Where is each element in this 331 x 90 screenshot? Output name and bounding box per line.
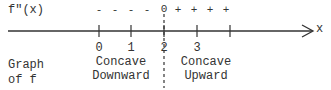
sign-zero: 0: [161, 3, 168, 15]
sign-positive: +: [175, 4, 182, 16]
concave-up-line2: Upward: [184, 69, 227, 83]
tick-label-2: 2: [160, 41, 167, 55]
sign-positive: +: [207, 4, 214, 16]
concave-down-line1: Concave: [96, 55, 146, 69]
function-label: f"(x): [8, 3, 44, 17]
graph-label-line2: of f: [8, 73, 37, 87]
x-axis-label: x: [316, 22, 323, 36]
concave-up-line1: Concave: [181, 55, 231, 69]
sign-negative: -: [144, 4, 151, 16]
tick-label-3: 3: [193, 41, 200, 55]
sign-positive: +: [223, 4, 230, 16]
graph-label-line1: Graph: [8, 58, 44, 72]
sign-positive: +: [191, 4, 198, 16]
sign-negative: -: [128, 4, 135, 16]
concave-down-line2: Downward: [92, 69, 150, 83]
tick-label-0: 0: [95, 41, 102, 55]
tick-label-1: 1: [127, 41, 134, 55]
sign-negative: -: [96, 4, 103, 16]
sign-negative: -: [112, 4, 119, 16]
